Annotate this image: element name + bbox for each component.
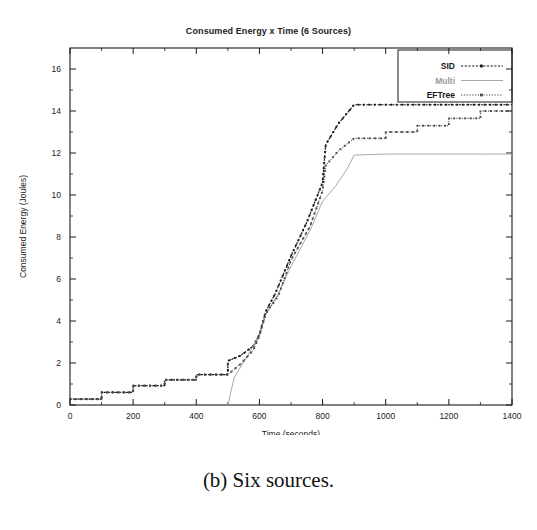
data-point-marker [112, 391, 114, 393]
data-point-marker [291, 257, 293, 259]
data-point-marker [155, 385, 157, 387]
x-tick-label: 600 [252, 411, 266, 421]
data-point-marker [321, 184, 323, 186]
series-line-multi [228, 154, 512, 405]
data-point-marker [322, 173, 324, 175]
data-point-marker [501, 110, 503, 112]
data-point-marker [323, 181, 325, 183]
data-point-marker [453, 117, 455, 119]
data-point-marker [288, 259, 290, 261]
data-point-marker [495, 110, 497, 112]
x-tick-label: 0 [68, 411, 73, 421]
y-tick-label: 14 [52, 106, 62, 116]
data-point-marker [258, 337, 260, 339]
plot-area: 02468101214160200400600800100012001400 S… [0, 40, 537, 435]
data-point-marker [220, 374, 222, 376]
data-point-marker [406, 131, 408, 133]
data-point-marker [307, 219, 309, 221]
data-point-marker [286, 272, 288, 274]
data-point-marker [506, 110, 508, 112]
data-point-marker [417, 125, 419, 127]
data-point-marker [309, 214, 311, 216]
data-point-marker [506, 104, 508, 106]
data-point-marker [308, 228, 310, 230]
data-point-marker [385, 137, 387, 139]
legend-marker-eftree [480, 94, 483, 97]
data-point-marker [390, 131, 392, 133]
y-tick-label: 12 [52, 148, 62, 158]
data-point-marker [300, 234, 302, 236]
data-point-marker [195, 376, 197, 378]
data-point-marker [128, 391, 130, 393]
data-point-marker [269, 306, 271, 308]
y-axis-label: Consumed Energy (Joules) [18, 175, 28, 278]
data-point-marker [262, 321, 264, 323]
data-point-marker [352, 105, 354, 107]
data-point-marker [268, 305, 270, 307]
series-line-sid [70, 105, 512, 399]
data-point-marker [226, 374, 228, 376]
data-point-marker [495, 104, 497, 106]
data-point-marker [239, 355, 241, 357]
data-point-marker [295, 244, 297, 246]
chart-legend[interactable]: SIDMultiEFTree [398, 50, 512, 102]
data-point-marker [171, 379, 173, 381]
data-point-marker [336, 152, 338, 154]
data-point-marker [324, 156, 326, 158]
data-point-marker [234, 357, 236, 359]
x-tick-label: 400 [189, 411, 203, 421]
data-point-marker [422, 125, 424, 127]
data-point-marker [106, 391, 108, 393]
data-point-marker [312, 218, 314, 220]
x-tick-label: 1400 [503, 411, 522, 421]
data-point-marker [294, 252, 296, 254]
data-point-marker [259, 332, 261, 334]
data-point-marker [324, 170, 326, 172]
data-point-marker [138, 385, 140, 387]
data-point-marker [416, 130, 418, 132]
legend-marker-sid [480, 65, 483, 68]
data-point-marker [330, 136, 332, 138]
data-point-marker [433, 125, 435, 127]
data-point-marker [278, 293, 280, 295]
data-point-marker [133, 385, 135, 387]
data-point-marker [272, 302, 274, 304]
figure-panel: Consumed Energy x Time (6 Sources) 02468… [0, 0, 537, 530]
legend-label-eftree[interactable]: EFTree [427, 90, 456, 100]
data-point-marker [149, 385, 151, 387]
data-point-marker [484, 104, 486, 106]
data-point-marker [325, 165, 327, 167]
legend-label-multi[interactable]: Multi [435, 76, 455, 86]
data-point-marker [319, 197, 321, 199]
data-point-marker [317, 202, 319, 204]
data-point-marker [423, 104, 425, 106]
data-point-marker [290, 254, 292, 256]
data-point-marker [230, 371, 232, 373]
data-point-marker [338, 122, 340, 124]
data-point-marker [198, 374, 200, 376]
data-point-marker [160, 385, 162, 387]
data-point-marker [165, 379, 167, 381]
data-point-marker [380, 137, 382, 139]
data-point-marker [459, 117, 461, 119]
data-point-marker [91, 398, 93, 400]
data-point-marker [451, 104, 453, 106]
axis-labels: Time (seconds)Consumed Energy (Joules) [18, 175, 320, 435]
data-point-marker [335, 126, 337, 128]
data-point-marker [363, 137, 365, 139]
data-point-marker [101, 391, 103, 393]
data-point-marker [368, 104, 370, 106]
data-point-marker [297, 247, 299, 249]
data-point-marker [407, 104, 409, 106]
data-point-marker [374, 137, 376, 139]
data-point-marker [315, 199, 317, 201]
data-point-marker [266, 311, 268, 313]
data-point-marker [248, 349, 250, 351]
data-point-marker [473, 104, 475, 106]
legend-label-sid[interactable]: SID [441, 61, 455, 71]
data-point-marker [304, 224, 306, 226]
data-point-marker [204, 374, 206, 376]
data-point-marker [401, 104, 403, 106]
chart-title: Consumed Energy x Time (6 Sources) [0, 26, 537, 36]
data-point-marker [280, 280, 282, 282]
